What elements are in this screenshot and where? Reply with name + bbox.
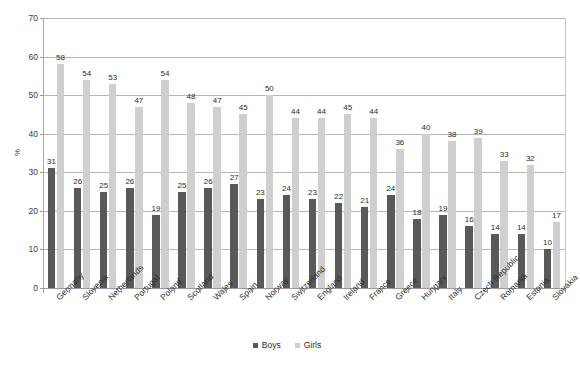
bar-boys [361, 207, 369, 288]
y-axis-title: % [13, 149, 22, 156]
x-tick-mark [200, 289, 201, 293]
bar-girls [239, 114, 247, 288]
bar-group: 1639 [461, 18, 487, 288]
bar-value-label: 17 [549, 212, 565, 220]
x-tick-mark [408, 289, 409, 293]
plot-right-border [565, 18, 566, 289]
bar-group: 1432 [513, 18, 539, 288]
bar-girls [422, 134, 430, 288]
bar-group: 1433 [487, 18, 513, 288]
legend-label: Boys [262, 341, 281, 350]
bar-group: 1840 [408, 18, 434, 288]
x-tick-mark [43, 289, 44, 293]
x-tick-mark [539, 289, 540, 293]
bar-value-label: 54 [157, 70, 173, 78]
y-tick-label: 70 [16, 14, 38, 22]
bar-boys [387, 195, 395, 288]
bar-value-label: 32 [523, 155, 539, 163]
bar-value-label: 33 [496, 151, 512, 159]
bar-girls [135, 107, 143, 288]
bar-series-container: 3158265425532647195425482647274523502444… [43, 18, 565, 288]
bar-girls [187, 103, 195, 288]
bar-value-label: 45 [340, 104, 356, 112]
bar-girls [213, 107, 221, 288]
bar-value-label: 48 [183, 93, 199, 101]
bar-girls [396, 149, 404, 288]
bar-value-label: 44 [288, 108, 304, 116]
bar-group: 2553 [95, 18, 121, 288]
bar-girls [266, 95, 274, 288]
bar-value-label: 36 [392, 139, 408, 147]
x-tick-mark [252, 289, 253, 293]
y-tick-label: 30 [16, 168, 38, 176]
legend-swatch-icon [295, 343, 300, 348]
bar-value-label: 44 [314, 108, 330, 116]
bar-girls [109, 84, 117, 288]
y-tick-mark [40, 249, 43, 250]
x-tick-mark [95, 289, 96, 293]
bar-group: 1017 [539, 18, 565, 288]
x-tick-mark [461, 289, 462, 293]
x-tick-mark [487, 289, 488, 293]
bar-value-label: 44 [366, 108, 382, 116]
y-tick-label: 40 [16, 130, 38, 138]
x-tick-mark [513, 289, 514, 293]
bar-value-label: 39 [470, 128, 486, 136]
y-tick-mark [40, 211, 43, 212]
bar-value-label: 47 [131, 97, 147, 105]
legend-item-girls[interactable]: Girls [295, 341, 321, 350]
x-tick-mark [356, 289, 357, 293]
bar-group: 2245 [330, 18, 356, 288]
x-tick-mark [330, 289, 331, 293]
bar-group: 3158 [43, 18, 69, 288]
y-axis-tick-labels: 010203040506070 [14, 0, 38, 373]
x-tick-mark [226, 289, 227, 293]
bar-group: 1938 [435, 18, 461, 288]
y-tick-mark [40, 172, 43, 173]
y-tick-mark [40, 57, 43, 58]
x-tick-mark [382, 289, 383, 293]
bar-value-label: 38 [444, 131, 460, 139]
x-tick-mark [147, 289, 148, 293]
y-tick-mark [40, 18, 43, 19]
bar-group: 1954 [147, 18, 173, 288]
bar-girls [318, 118, 326, 288]
x-tick-mark [69, 289, 70, 293]
y-tick-label: 50 [16, 91, 38, 99]
bar-boys [48, 168, 56, 288]
x-tick-mark [121, 289, 122, 293]
x-tick-mark [565, 289, 566, 293]
y-tick-mark [40, 134, 43, 135]
bar-boys [465, 226, 473, 288]
bar-group: 2444 [278, 18, 304, 288]
bar-girls [553, 222, 561, 288]
bar-group: 2144 [356, 18, 382, 288]
chart-legend: BoysGirls [0, 341, 574, 350]
bar-group: 2350 [252, 18, 278, 288]
legend-swatch-icon [253, 343, 258, 348]
bar-group: 2344 [304, 18, 330, 288]
y-tick-label: 10 [16, 245, 38, 253]
bar-boys [178, 192, 186, 288]
x-tick-mark [304, 289, 305, 293]
legend-label: Girls [304, 341, 321, 350]
x-tick-mark [278, 289, 279, 293]
bar-girls [527, 165, 535, 288]
bar-group: 2745 [226, 18, 252, 288]
bar-boys [230, 184, 238, 288]
y-tick-label: 0 [16, 284, 38, 292]
bar-girls [448, 141, 456, 288]
bar-value-label: 47 [209, 97, 225, 105]
bar-value-label: 54 [79, 70, 95, 78]
bar-girls [370, 118, 378, 288]
bar-group: 2654 [69, 18, 95, 288]
y-tick-label: 20 [16, 207, 38, 215]
x-tick-mark [174, 289, 175, 293]
bar-girls [161, 80, 169, 288]
bar-group: 2647 [121, 18, 147, 288]
bar-girls [292, 118, 300, 288]
legend-item-boys[interactable]: Boys [253, 341, 281, 350]
bar-value-label: 53 [105, 74, 121, 82]
bar-girls [83, 80, 91, 288]
